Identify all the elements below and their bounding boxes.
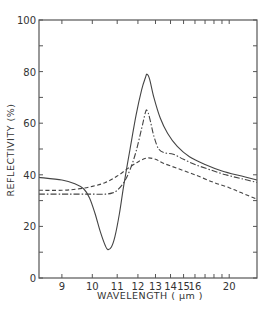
y-tick-label: 40 [23,170,36,181]
x-axis-title: WAVELENGTH ( μm ) [97,290,203,301]
y-tick-label: 0 [30,273,36,284]
y-axis-ticks: 020406080100 [17,15,257,284]
x-tick-label: 9 [59,281,65,292]
y-tick-label: 20 [23,221,36,232]
x-axis-ticks: 91011121314151620 [59,20,236,292]
y-tick-label: 80 [23,67,36,78]
plot-frame [39,20,257,278]
series-line-solid [39,74,257,250]
y-tick-label: 100 [17,15,36,26]
curves-layer [39,74,257,250]
x-tick-label: 20 [223,281,236,292]
series-line-dash-dot [39,110,257,194]
y-axis-title: REFLECTIVITY (%) [5,104,16,197]
y-tick-label: 60 [23,118,36,129]
series-line-dashed [39,158,257,199]
reflectivity-chart: 91011121314151620 020406080100 WAVELENGT… [0,0,265,311]
